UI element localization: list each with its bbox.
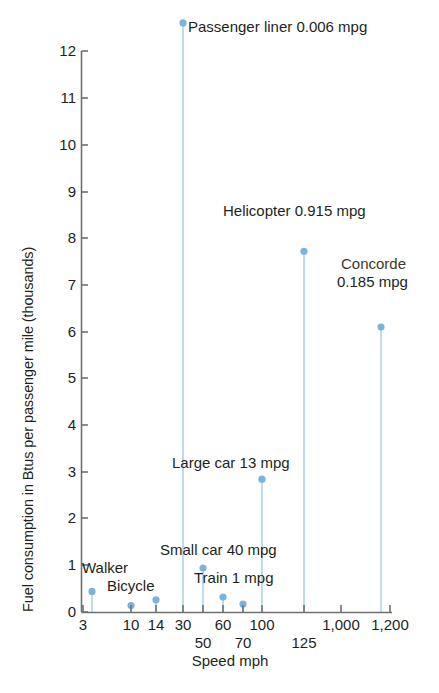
y-tick-label: 12 xyxy=(40,42,76,59)
data-point-marker xyxy=(219,593,226,600)
y-tick-group xyxy=(82,51,89,612)
annotation-helicopter: Helicopter 0.915 mpg xyxy=(223,203,366,220)
y-tick-label: 1 xyxy=(40,556,76,573)
y-tick-label: 3 xyxy=(40,463,76,480)
annotation-small-car: Small car 40 mpg xyxy=(160,542,277,559)
x-tick-label: 1,200 xyxy=(360,616,420,633)
data-point-marker xyxy=(88,588,95,595)
axis-group xyxy=(82,51,393,613)
data-point-marker xyxy=(152,596,159,603)
marker-group xyxy=(88,19,384,609)
data-point-marker xyxy=(300,248,307,255)
data-point-marker xyxy=(258,476,265,483)
annotation-concorde-name: Concorde xyxy=(341,256,406,273)
x-axis-title: Speed mph xyxy=(175,652,285,669)
annotation-bicycle: Bicycle xyxy=(107,578,155,595)
y-tick-label: 2 xyxy=(40,509,76,526)
x-tick-label: 125 xyxy=(274,634,334,651)
annotation-passenger-liner: Passenger liner 0.006 mpg xyxy=(188,19,367,36)
y-tick-label: 8 xyxy=(40,229,76,246)
x-tick-label: 100 xyxy=(232,616,292,633)
annotation-walker: Walker xyxy=(82,560,128,577)
annotation-large-car: Large car 13 mpg xyxy=(172,455,290,472)
y-tick-label: 9 xyxy=(40,183,76,200)
stem-group xyxy=(92,23,381,613)
data-point-marker xyxy=(179,19,186,26)
x-tick-label: 70 xyxy=(213,634,273,651)
y-axis-title: Fuel consumption in Btus per passenger m… xyxy=(20,247,36,612)
y-tick-label: 7 xyxy=(40,276,76,293)
y-tick-label: 11 xyxy=(40,89,76,106)
y-tick-label: 5 xyxy=(40,369,76,386)
fuel-consumption-chart: Fuel consumption in Btus per passenger m… xyxy=(0,0,439,693)
y-tick-label: 10 xyxy=(40,136,76,153)
annotation-concorde-value: 0.185 mpg xyxy=(337,274,408,291)
y-tick-label: 4 xyxy=(40,416,76,433)
y-tick-label: 6 xyxy=(40,323,76,340)
annotation-train: Train 1 mpg xyxy=(194,570,273,587)
data-point-marker xyxy=(377,323,384,330)
